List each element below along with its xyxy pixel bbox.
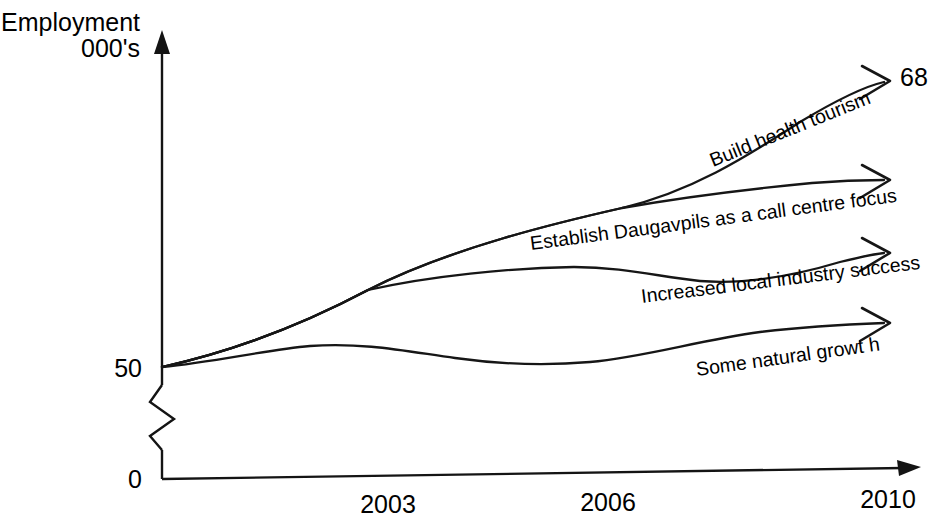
y-axis	[150, 30, 174, 479]
series-4-label: Some natural growt h	[694, 332, 881, 380]
y-axis-arrow-icon	[154, 30, 170, 54]
employment-growth-line-chart: Employment 000's 50 0 2003 2006 2010 68 …	[0, 0, 931, 520]
y-tick-label-50: 50	[114, 354, 142, 382]
x-tick-label-2003: 2003	[360, 490, 416, 518]
series-establish-daugavpils	[162, 165, 890, 367]
y-tick-label-0: 0	[128, 465, 142, 493]
y-axis-title-line2: 000's	[81, 34, 140, 62]
x-axis	[162, 460, 921, 479]
x-tick-label-2006: 2006	[580, 488, 636, 516]
x-tick-label-2010: 2010	[860, 485, 916, 513]
chart-root: Employment 000's 50 0 2003 2006 2010 68 …	[0, 0, 931, 520]
series-1-label: Build health tourism	[706, 86, 873, 171]
end-value-label-68: 68	[900, 63, 928, 91]
y-axis-break-zigzag	[150, 385, 174, 450]
x-axis-line	[162, 468, 903, 479]
y-axis-title-line1: Employment	[1, 8, 140, 36]
x-axis-arrow-icon	[897, 460, 921, 476]
